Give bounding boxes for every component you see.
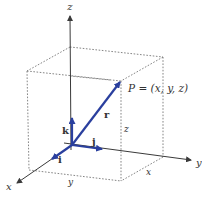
z-height-label: z bbox=[123, 124, 129, 134]
position-vector-r bbox=[72, 82, 120, 145]
z-axis-label: z bbox=[66, 1, 73, 12]
z-axis bbox=[70, 16, 71, 150]
vectors bbox=[52, 82, 120, 159]
k-vector-label: k bbox=[62, 125, 70, 136]
y-dimension-label: y bbox=[67, 177, 74, 187]
unit-vector-i bbox=[52, 145, 72, 159]
position-vector-diagram: z y x P = (x, y, z) r k j i z x y bbox=[0, 0, 202, 202]
x-dimension-label: x bbox=[146, 167, 151, 177]
x-axis-label: x bbox=[6, 181, 12, 192]
r-vector-label: r bbox=[104, 109, 110, 120]
axes bbox=[17, 16, 191, 183]
y-axis-label: y bbox=[195, 157, 202, 168]
point-label: P = (x, y, z) bbox=[127, 82, 188, 94]
j-vector-label: j bbox=[91, 136, 96, 147]
i-vector-label: i bbox=[58, 154, 62, 165]
